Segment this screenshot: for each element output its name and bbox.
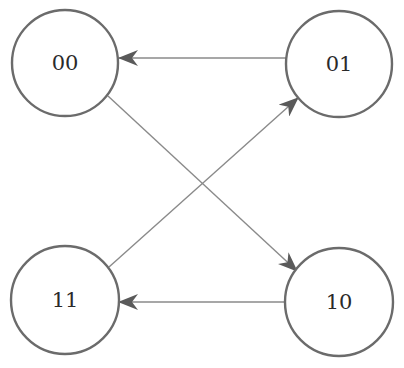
- node-00-label: 00: [52, 51, 79, 75]
- node-11: 11: [11, 246, 119, 354]
- node-01-label: 01: [326, 52, 353, 76]
- state-diagram: 00 01 11 10: [0, 0, 404, 368]
- node-01: 01: [286, 11, 392, 117]
- edges: [108, 58, 298, 302]
- node-10: 10: [285, 248, 393, 356]
- node-11-label: 11: [52, 288, 79, 312]
- node-10-label: 10: [326, 290, 353, 314]
- node-00: 00: [12, 10, 118, 116]
